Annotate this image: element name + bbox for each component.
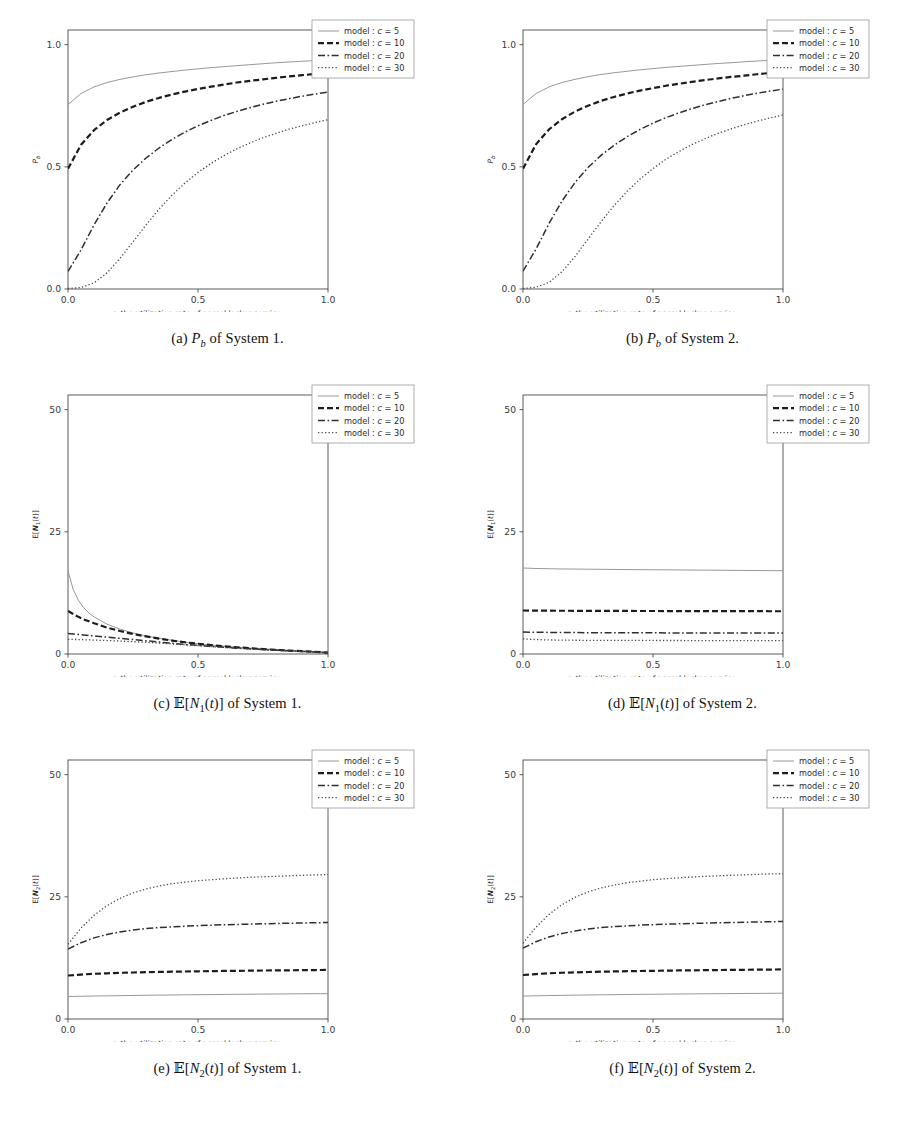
plot-f: 025500.00.51.0r, the utilization rate of… — [455, 742, 910, 1042]
y-tick-label: 0 — [510, 648, 516, 659]
x-axis-title: r, the utilization rate of parcel locker… — [568, 309, 739, 312]
y-axis-title: E[N1(t)] — [486, 510, 496, 539]
y-axis-title: Pb — [31, 155, 41, 163]
caption-expectation-symbol: 𝔼 — [629, 695, 640, 711]
y-tick-label: 50 — [49, 404, 61, 415]
y-tick-label: 25 — [49, 526, 61, 537]
y-axis-title: Pb — [486, 155, 496, 163]
subplot-panel-f: 025500.00.51.0r, the utilization rate of… — [455, 742, 910, 1119]
y-tick-label: 50 — [504, 404, 516, 415]
x-axis-title: r, the utilization rate of parcel locker… — [568, 1039, 739, 1042]
x-tick-label: 0.0 — [61, 1024, 76, 1035]
legend-label-c-5: model : c = 5 — [799, 756, 854, 766]
y-tick-label: 0 — [55, 648, 61, 659]
legend-label-c-20: model : c = 20 — [799, 416, 859, 426]
series-line-c-20 — [523, 922, 783, 949]
x-axis-title: r, the utilization rate of parcel locker… — [113, 1039, 284, 1042]
series-group — [68, 571, 328, 653]
legend: model : c = 5model : c = 10model : c = 2… — [767, 750, 869, 808]
subplot-panel-c: 025500.00.51.0r, the utilization rate of… — [0, 377, 455, 754]
y-tick-label: 50 — [504, 769, 516, 780]
y-tick-label: 25 — [49, 891, 61, 902]
plot-frame — [68, 760, 328, 1019]
subplot-panel-a: 0.00.51.00.00.51.0r, the utilization rat… — [0, 12, 455, 389]
plot-e: 025500.00.51.0r, the utilization rate of… — [0, 742, 455, 1042]
legend-label-c-20: model : c = 20 — [344, 416, 404, 426]
x-tick-label: 1.0 — [321, 294, 336, 305]
x-axis-title: r, the utilization rate of parcel locker… — [113, 309, 284, 312]
series-line-c-30 — [523, 639, 783, 641]
x-tick-label: 0.5 — [191, 294, 206, 305]
series-line-c-10 — [523, 611, 783, 612]
series-line-c-5 — [523, 993, 783, 996]
legend: model : c = 5model : c = 10model : c = 2… — [312, 385, 414, 443]
x-axis-title: r, the utilization rate of parcel locker… — [113, 674, 284, 677]
legend-label-c-10: model : c = 10 — [799, 403, 859, 413]
legend: model : c = 5model : c = 10model : c = 2… — [767, 385, 869, 443]
plot-b: 0.00.51.00.00.51.0r, the utilization rat… — [455, 12, 910, 312]
y-axis-title: E[N1(t)] — [31, 510, 41, 539]
y-tick-label: 25 — [504, 526, 516, 537]
legend-label-c-5: model : c = 5 — [344, 756, 399, 766]
caption-tag: (f) — [609, 1060, 628, 1076]
legend-label-c-10: model : c = 10 — [344, 403, 404, 413]
series-line-c-5 — [523, 568, 783, 571]
caption-n-symbol: N — [190, 1060, 200, 1076]
caption-n-symbol: N — [190, 695, 200, 711]
legend-label-c-20: model : c = 20 — [799, 51, 859, 61]
caption-tail: of System 2. — [679, 695, 757, 711]
caption-n-symbol: N — [644, 1060, 654, 1076]
legend-label-c-5: model : c = 5 — [799, 26, 854, 36]
x-tick-label: 0.5 — [646, 294, 661, 305]
subplot-caption-d: (d) 𝔼[N1(t)] of System 2. — [455, 695, 910, 714]
subplot-row-2: 025500.00.51.0r, the utilization rate of… — [0, 377, 910, 754]
caption-tag: (a) — [171, 330, 191, 346]
series-line-c-5 — [68, 994, 328, 997]
caption-tag: (e) — [153, 1060, 173, 1076]
y-tick-label: 0.0 — [501, 283, 516, 294]
legend-label-c-10: model : c = 10 — [344, 768, 404, 778]
caption-tail: of System 1. — [224, 1060, 302, 1076]
x-tick-label: 0.0 — [61, 294, 76, 305]
subplot-row-3: 025500.00.51.0r, the utilization rate of… — [0, 742, 910, 1119]
caption-tail: of System 2. — [661, 330, 739, 346]
subplot-caption-f: (f) 𝔼[N2(t)] of System 2. — [455, 1060, 910, 1079]
x-tick-label: 0.0 — [516, 294, 531, 305]
y-tick-label: 1.0 — [46, 39, 61, 50]
legend-label-c-20: model : c = 20 — [344, 781, 404, 791]
legend-label-c-5: model : c = 5 — [799, 391, 854, 401]
x-tick-label: 0.0 — [516, 1024, 531, 1035]
figure-root: 0.00.51.00.00.51.0r, the utilization rat… — [0, 0, 910, 1131]
legend-label-c-30: model : c = 30 — [344, 793, 404, 803]
y-tick-label: 0 — [55, 1013, 61, 1024]
x-tick-label: 1.0 — [321, 1024, 336, 1035]
series-group — [68, 60, 328, 289]
legend-label-c-10: model : c = 10 — [799, 768, 859, 778]
caption-tail: of System 1. — [224, 695, 302, 711]
y-tick-label: 25 — [504, 891, 516, 902]
caption-close: )] — [668, 1060, 678, 1076]
subplot-caption-a: (a) Pb of System 1. — [0, 330, 455, 349]
caption-tail: of System 2. — [678, 1060, 756, 1076]
subplot-panel-e: 025500.00.51.0r, the utilization rate of… — [0, 742, 455, 1119]
series-line-c-20 — [68, 922, 328, 949]
x-tick-label: 1.0 — [776, 1024, 791, 1035]
legend-label-c-30: model : c = 30 — [799, 63, 859, 73]
x-tick-label: 1.0 — [321, 659, 336, 670]
legend-label-c-5: model : c = 5 — [344, 26, 399, 36]
plot-frame — [523, 395, 783, 654]
caption-expectation-symbol: 𝔼 — [174, 1060, 185, 1076]
legend-label-c-5: model : c = 5 — [344, 391, 399, 401]
series-line-c-30 — [523, 115, 783, 288]
x-tick-label: 0.5 — [191, 1024, 206, 1035]
series-line-c-10 — [523, 969, 783, 975]
x-tick-label: 0.5 — [646, 659, 661, 670]
x-tick-label: 1.0 — [776, 294, 791, 305]
legend: model : c = 5model : c = 10model : c = 2… — [312, 750, 414, 808]
legend-label-c-20: model : c = 20 — [799, 781, 859, 791]
series-group — [523, 874, 783, 996]
caption-tag: (d) — [608, 695, 629, 711]
caption-close: )] — [214, 1060, 224, 1076]
subplot-caption-c: (c) 𝔼[N1(t)] of System 1. — [0, 695, 455, 714]
legend-label-c-10: model : c = 10 — [344, 38, 404, 48]
